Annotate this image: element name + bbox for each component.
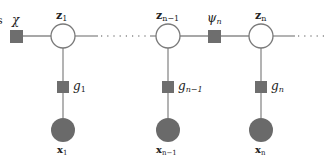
factor-graph: s χ z1 zn−1 ψn zn g1	[0, 0, 329, 158]
factor-g-n-minus-1-label: gn−1	[178, 79, 203, 94]
factor-psi-n: ψn	[207, 11, 222, 43]
observed-node-x-n: xn	[249, 118, 273, 157]
observed-circle-icon	[156, 118, 180, 142]
observed-node-x1: x1	[51, 118, 75, 157]
latent-circle-icon	[51, 24, 75, 48]
observed-node-x-n-minus-1: xn−1	[156, 118, 180, 157]
factor-g-n: gn	[255, 79, 284, 94]
latent-node-z-n: zn	[249, 9, 273, 48]
latent-circle-icon	[249, 24, 273, 48]
factor-square-icon	[208, 30, 221, 43]
latent-node-z1: z1	[51, 9, 75, 48]
factor-chi: χ	[10, 13, 23, 43]
factor-square-icon	[255, 81, 267, 93]
clipped-left-label: s	[0, 14, 3, 27]
observed-circle-icon	[51, 118, 75, 142]
factor-psi-n-label: ψn	[207, 11, 222, 26]
factor-square-icon	[57, 81, 69, 93]
factor-g1-label: g1	[73, 79, 86, 94]
factor-g-n-label: gn	[271, 79, 284, 94]
factor-square-icon	[162, 81, 174, 93]
latent-circle-icon	[156, 24, 180, 48]
factor-square-icon	[10, 30, 23, 43]
factor-g1: g1	[57, 79, 86, 94]
observed-circle-icon	[249, 118, 273, 142]
x-n-minus-1-label: xn−1	[156, 144, 177, 157]
z1-label: z1	[56, 9, 67, 23]
factor-chi-label: χ	[11, 13, 20, 27]
z-n-label: zn	[255, 9, 266, 23]
latent-node-z-n-minus-1: zn−1	[156, 9, 180, 48]
z-n-minus-1-label: zn−1	[156, 9, 179, 23]
x-n-label: xn	[255, 144, 266, 157]
factor-g-n-minus-1: gn−1	[162, 79, 203, 94]
x1-label: x1	[57, 144, 67, 157]
